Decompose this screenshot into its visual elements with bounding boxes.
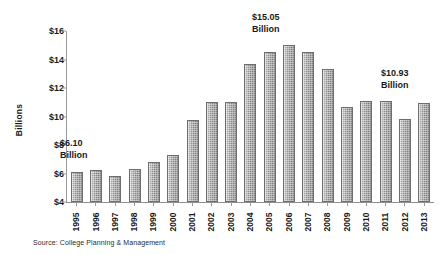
- x-axis-label-slot: 2007: [299, 206, 318, 238]
- y-axis-title: Billions: [10, 80, 28, 160]
- x-axis-label-slot: 1997: [106, 206, 125, 238]
- bar: [167, 155, 179, 202]
- source-caption: Source: College Planning & Management: [33, 239, 165, 246]
- bar-slot: [376, 26, 395, 202]
- y-axis-tick-label: $6: [34, 169, 64, 179]
- bar-chart: Billions $4$6$8$10$12$14$16 199519961997…: [0, 0, 443, 255]
- bar-slot: [299, 26, 318, 202]
- x-axis-tick-label: 2001: [188, 213, 198, 232]
- x-axis-label-slot: 2001: [183, 206, 202, 238]
- x-axis-label-slot: 2013: [415, 206, 434, 238]
- x-axis-label-slot: 2011: [376, 206, 395, 238]
- x-axis-tick-label: 1999: [149, 213, 159, 232]
- x-axis-label-slot: 1998: [125, 206, 144, 238]
- y-axis-tick-label: $4: [34, 197, 64, 207]
- x-axis-label-slot: 2012: [395, 206, 414, 238]
- x-axis-tick-label: 2002: [207, 213, 217, 232]
- x-axis-label-slot: 1999: [144, 206, 163, 238]
- bar-slot: [222, 26, 241, 202]
- x-axis-label-slot: 2000: [164, 206, 183, 238]
- bar: [206, 102, 218, 202]
- bar: [341, 107, 353, 202]
- bar: [244, 64, 256, 202]
- bar-slot: [395, 26, 414, 202]
- y-axis-tick-label: $10: [34, 112, 64, 122]
- bar: [71, 172, 83, 202]
- annotation-peak-value-amount: $15.05: [252, 12, 280, 24]
- y-axis: $4$6$8$10$12$14$16: [34, 26, 64, 211]
- bar-slot: [202, 26, 221, 202]
- bar-slot: [67, 26, 86, 202]
- annotation-first-value: $6.10 Billion: [60, 138, 88, 161]
- bar-slot: [318, 26, 337, 202]
- bar-slot: [144, 26, 163, 202]
- bar: [399, 119, 411, 202]
- x-axis-label-slot: 2009: [337, 206, 356, 238]
- bar-series: [67, 26, 434, 202]
- x-axis-label-slot: 2010: [357, 206, 376, 238]
- bar-slot: [415, 26, 434, 202]
- x-axis-tick-label: 2003: [226, 213, 236, 232]
- bar: [322, 69, 334, 202]
- bar: [360, 101, 372, 202]
- bar: [225, 102, 237, 202]
- y-axis-tick-label: $16: [34, 26, 64, 36]
- x-axis-tick-label: 2005: [265, 213, 275, 232]
- annotation-first-value-unit: Billion: [60, 150, 88, 162]
- x-axis-label-slot: 2008: [318, 206, 337, 238]
- x-axis-label-slot: 2005: [260, 206, 279, 238]
- x-axis-tick-label: 2013: [419, 213, 429, 232]
- x-axis-tick-label: 1996: [91, 213, 101, 232]
- bar-slot: [183, 26, 202, 202]
- bar-slot: [260, 26, 279, 202]
- bar-slot: [241, 26, 260, 202]
- annotation-peak-value-unit: Billion: [252, 24, 280, 36]
- x-axis-labels: 1995199619971998199920002001200220032004…: [67, 206, 434, 238]
- x-axis-tick-label: 2008: [323, 213, 333, 232]
- annotation-last-value: $10.93 Billion: [381, 68, 409, 91]
- y-axis-title-label: Billions: [14, 104, 24, 136]
- x-axis-tick-label: 2009: [342, 213, 352, 232]
- bar: [302, 52, 314, 202]
- x-axis-label-slot: 2004: [241, 206, 260, 238]
- bar-slot: [164, 26, 183, 202]
- bar-slot: [337, 26, 356, 202]
- bar-slot: [279, 26, 298, 202]
- bar: [264, 52, 276, 202]
- x-axis-label-slot: 2006: [279, 206, 298, 238]
- bar: [129, 169, 141, 202]
- bar: [109, 176, 121, 202]
- x-axis-tick-label: 2012: [400, 213, 410, 232]
- x-axis-tick-label: 2004: [245, 213, 255, 232]
- x-axis-tick-label: 2007: [303, 213, 313, 232]
- annotation-first-value-amount: $6.10: [60, 138, 88, 150]
- x-axis-label-slot: 1996: [86, 206, 105, 238]
- x-axis-tick-label: 2011: [381, 213, 391, 231]
- x-axis-tick-label: 2000: [168, 213, 178, 232]
- x-axis-tick-label: 1997: [110, 213, 120, 232]
- bar-slot: [357, 26, 376, 202]
- bar: [187, 120, 199, 202]
- annotation-peak-value: $15.05 Billion: [252, 12, 280, 35]
- x-axis-tick-label: 1995: [72, 213, 82, 232]
- annotation-last-value-unit: Billion: [381, 80, 409, 92]
- bar: [148, 162, 160, 202]
- bar: [90, 170, 102, 202]
- x-axis-tick-label: 1998: [130, 213, 140, 232]
- annotation-last-value-amount: $10.93: [381, 68, 409, 80]
- x-axis-tick-label: 2010: [361, 213, 371, 232]
- bar: [418, 103, 430, 202]
- bar: [283, 45, 295, 202]
- bar-slot: [86, 26, 105, 202]
- plot-area: [67, 26, 434, 202]
- x-axis-label-slot: 2002: [202, 206, 221, 238]
- bar-slot: [125, 26, 144, 202]
- bar: [380, 101, 392, 202]
- x-axis-label-slot: 2003: [222, 206, 241, 238]
- y-axis-tick-label: $12: [34, 83, 64, 93]
- y-axis-tick-label: $14: [34, 55, 64, 65]
- x-axis-label-slot: 1995: [67, 206, 86, 238]
- bar-slot: [106, 26, 125, 202]
- x-axis-tick-label: 2006: [284, 213, 294, 232]
